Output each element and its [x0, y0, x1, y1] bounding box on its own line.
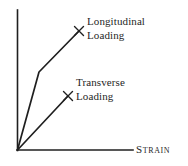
annotation-longitudinal-line1: Longitudinal — [87, 14, 145, 28]
x-axis-label: Strain — [136, 143, 170, 155]
annotation-transverse-line2: Loading — [76, 89, 125, 103]
annotation-transverse-line1: Transverse — [76, 75, 125, 89]
annotation-longitudinal-line2: Loading — [87, 28, 145, 42]
failure-marker-transverse-icon — [64, 92, 73, 101]
curve-longitudinal-loading — [18, 31, 80, 150]
annotation-transverse-loading: Transverse Loading — [76, 75, 125, 103]
stress-strain-figure: Longitudinal Loading Transverse Loading … — [0, 0, 188, 166]
annotation-longitudinal-loading: Longitudinal Loading — [87, 14, 145, 42]
failure-marker-longitudinal-icon — [75, 27, 84, 36]
